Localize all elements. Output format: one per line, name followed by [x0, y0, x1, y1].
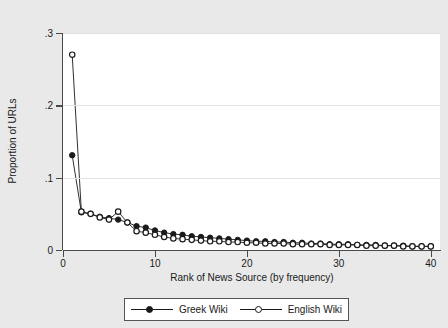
data-point-english-wiki: [272, 241, 277, 246]
data-point-english-wiki: [207, 239, 212, 244]
data-point-english-wiki: [327, 242, 332, 247]
data-point-english-wiki: [226, 239, 231, 244]
series-line-greek-wiki: [72, 155, 431, 246]
data-point-english-wiki: [217, 239, 222, 244]
data-point-english-wiki: [88, 211, 93, 216]
legend-label-greek-wiki: Greek Wiki: [179, 304, 228, 315]
x-axis-tick: [339, 251, 340, 257]
x-axis-tick-label: 0: [60, 258, 66, 269]
data-point-english-wiki: [299, 242, 304, 247]
x-axis-tick-label: 30: [333, 258, 344, 269]
data-point-english-wiki: [345, 242, 350, 247]
data-point-english-wiki: [281, 241, 286, 246]
y-axis-title: Proportion of URLs: [7, 98, 18, 183]
x-axis-tick: [155, 251, 156, 257]
data-point-english-wiki: [355, 242, 360, 247]
y-axis-tick: [56, 105, 62, 106]
data-point-english-wiki: [263, 241, 268, 246]
gridline: [63, 33, 440, 34]
series-line-english-wiki: [72, 55, 431, 247]
y-axis-line: [62, 33, 63, 250]
y-axis-tick-label: 0: [47, 245, 53, 256]
y-axis-tick-label: .1: [45, 172, 53, 183]
x-axis-tick: [247, 251, 248, 257]
legend-entry-english-wiki: English Wiki: [240, 304, 342, 315]
x-axis-tick: [63, 251, 64, 257]
data-point-english-wiki: [419, 244, 424, 249]
data-point-english-wiki: [410, 244, 415, 249]
data-point-english-wiki: [382, 243, 387, 248]
x-axis-tick-label: 40: [425, 258, 436, 269]
x-axis-title: Rank of News Source (by frequency): [63, 272, 441, 283]
data-point-english-wiki: [364, 243, 369, 248]
data-point-english-wiki: [428, 244, 433, 249]
y-axis-tick-label: .2: [45, 100, 53, 111]
data-point-english-wiki: [143, 230, 148, 235]
x-axis-tick-label: 10: [149, 258, 160, 269]
data-point-greek-wiki: [115, 217, 120, 222]
chart-legend: Greek Wiki English Wiki: [124, 298, 349, 321]
series-plot: [63, 33, 440, 250]
plot-area: [63, 33, 440, 250]
data-point-english-wiki: [125, 220, 130, 225]
data-point-english-wiki: [152, 232, 157, 237]
data-point-english-wiki: [244, 240, 249, 245]
x-axis-tick-label: 20: [241, 258, 252, 269]
data-point-english-wiki: [290, 242, 295, 247]
data-point-english-wiki: [391, 243, 396, 248]
data-point-english-wiki: [189, 237, 194, 242]
data-point-english-wiki: [79, 209, 84, 214]
chart-figure: 0.1.2.3 010203040 Proportion of URLs Ran…: [0, 0, 448, 328]
y-axis-tick: [56, 33, 62, 34]
legend-swatch-filled-circle-icon: [131, 304, 173, 315]
y-axis-title-label: Proportion of URLs: [7, 98, 18, 183]
data-point-english-wiki: [97, 215, 102, 220]
x-axis-line: [63, 250, 441, 251]
data-point-english-wiki: [198, 238, 203, 243]
data-point-english-wiki: [171, 236, 176, 241]
data-point-english-wiki: [309, 242, 314, 247]
x-axis-tick: [431, 251, 432, 257]
data-point-english-wiki: [70, 52, 75, 57]
data-point-english-wiki: [161, 234, 166, 239]
y-axis-tick-label: .3: [45, 28, 53, 39]
data-point-english-wiki: [235, 239, 240, 244]
figure-inner-panel: 0.1.2.3 010203040 Proportion of URLs Ran…: [8, 8, 440, 320]
data-point-english-wiki: [336, 242, 341, 247]
legend-entry-greek-wiki: Greek Wiki: [131, 304, 228, 315]
legend-swatch-hollow-circle-icon: [240, 304, 282, 315]
y-axis-tick: [56, 178, 62, 179]
data-point-english-wiki: [253, 240, 258, 245]
data-point-english-wiki: [180, 236, 185, 241]
legend-label-english-wiki: English Wiki: [288, 304, 342, 315]
data-point-english-wiki: [401, 244, 406, 249]
data-point-english-wiki: [318, 242, 323, 247]
y-axis-tick: [56, 250, 62, 251]
data-point-greek-wiki: [70, 153, 75, 158]
data-point-english-wiki: [115, 209, 120, 214]
data-point-english-wiki: [106, 217, 111, 222]
data-point-english-wiki: [134, 228, 139, 233]
gridline: [63, 178, 440, 179]
data-point-english-wiki: [373, 243, 378, 248]
gridline: [63, 105, 440, 106]
